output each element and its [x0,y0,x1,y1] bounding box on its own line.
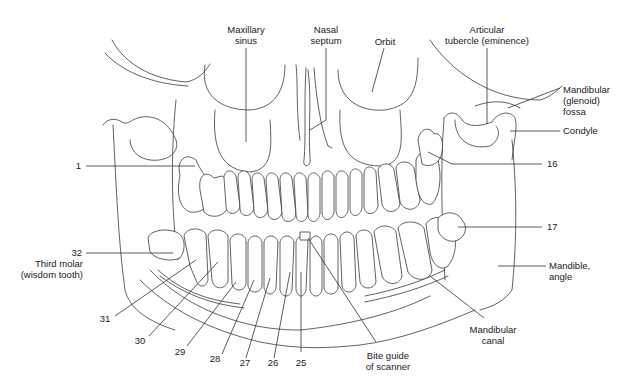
dental-panoramic-diagram: Maxillary sinus Nasal septum Orbit Artic… [0,0,622,387]
left-ramus [113,125,175,330]
leader-28 [222,280,254,354]
mandible-lower-border [140,280,475,348]
lower-teeth [148,213,465,296]
right-fossa [475,102,520,108]
label-articular-tubercle: Articular tubercle (eminence) [445,24,529,46]
right-sinus-lower [340,110,401,166]
right-ramus [480,140,516,310]
label-third-molar: Third molar (wisdom tooth) [21,258,83,280]
label-tooth-26: 26 [268,357,279,368]
leader-orbit [372,48,384,92]
label-mandibular-fossa: Mandibular (glenoid) fossa [563,84,610,117]
anatomy-drawing [0,0,622,387]
label-tooth-31: 31 [100,313,111,324]
leader-29 [187,282,236,346]
right-zygomatic-arch [430,40,562,100]
left-sinus-upper [204,65,285,110]
label-tooth-25: 25 [296,357,307,368]
label-tooth-29: 29 [175,346,186,357]
nasal-wall [314,68,332,148]
right-sinus-upper [338,58,418,110]
label-tooth-32: 32 [71,247,82,258]
right-sigmoid [455,120,498,147]
left-sinus-lower [214,110,270,172]
label-tooth-1: 1 [76,160,81,171]
label-tooth-27: 27 [240,357,251,368]
leader-nasal-septum-d [310,120,326,130]
label-bite-guide: Bite guide of scanner [366,350,410,372]
label-tooth-17: 17 [547,221,558,232]
leader-mandibular-canal [430,276,484,318]
label-orbit: Orbit [375,36,396,47]
nasal-wall-2 [296,65,300,140]
label-mandibular-canal: Mandibular canal [470,324,517,346]
label-nasal-septum: Nasal septum [310,24,341,46]
nasal-septum-lines [304,68,311,166]
label-condyle: Condyle [563,125,598,136]
label-tooth-16: 16 [547,158,558,169]
left-orbit-arch [112,40,210,82]
upper-teeth [178,129,442,221]
label-maxillary-sinus: Maxillary sinus [227,24,264,46]
label-mandible-angle: Mandible, angle [549,260,590,282]
label-tooth-30: 30 [135,335,146,346]
label-tooth-28: 28 [210,353,221,364]
